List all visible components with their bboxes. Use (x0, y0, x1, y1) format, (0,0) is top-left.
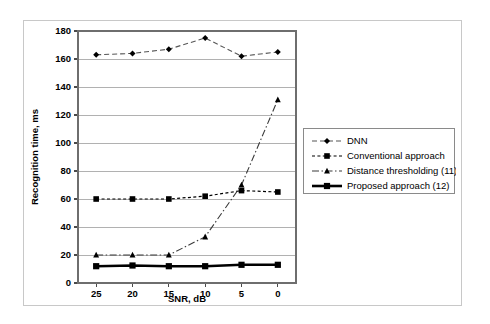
square-marker (202, 263, 208, 269)
square-marker (93, 196, 99, 202)
y-tick-label: 140 (55, 81, 71, 92)
y-tick-label: 0 (66, 277, 71, 288)
legend-item[interactable]: Distance thresholding (11) (312, 165, 456, 176)
diamond-marker (202, 35, 208, 41)
legend-label: Distance thresholding (11) (347, 165, 456, 176)
y-tick-label: 100 (55, 137, 71, 148)
diamond-marker (324, 138, 330, 144)
square-marker (324, 153, 330, 159)
legend-label: Conventional approach (347, 150, 445, 161)
x-axis-title: SNR, dB (168, 293, 206, 304)
series-line (96, 191, 278, 199)
series-dnn (93, 35, 281, 59)
square-marker (238, 262, 244, 268)
legend-item[interactable]: Proposed approach (12) (312, 180, 449, 191)
y-tick-label: 120 (55, 109, 71, 120)
gridlines (78, 31, 296, 283)
square-marker (166, 263, 172, 269)
legend-label: DNN (347, 135, 368, 146)
square-marker (324, 183, 330, 189)
legend-label: Proposed approach (12) (347, 180, 449, 191)
y-tick-label: 60 (60, 193, 71, 204)
diamond-marker (275, 49, 281, 55)
y-tick-label: 180 (55, 25, 71, 36)
series-line (96, 265, 278, 266)
y-tick-label: 80 (60, 165, 71, 176)
square-marker (130, 196, 136, 202)
series-distance-thresholding-11 (93, 96, 281, 257)
diamond-marker (130, 50, 136, 56)
triangle-marker (275, 96, 281, 102)
series-line (96, 100, 278, 255)
y-axis-title: Recognition time, ms (29, 109, 40, 205)
diamond-marker (166, 46, 172, 52)
square-marker (275, 262, 281, 268)
y-tick-label: 20 (60, 249, 71, 260)
x-tick-label: 25 (91, 288, 102, 299)
series-proposed-approach-12 (93, 262, 281, 270)
triangle-marker (202, 234, 208, 240)
square-marker (275, 189, 281, 195)
x-tick-label: 0 (275, 288, 280, 299)
y-tick-label: 160 (55, 53, 71, 64)
x-tick-label: 20 (127, 288, 138, 299)
square-marker (129, 262, 135, 268)
legend-item[interactable]: Conventional approach (312, 150, 445, 161)
legend-item[interactable]: DNN (312, 135, 368, 146)
triangle-marker (239, 182, 245, 188)
x-tick-label: 5 (239, 288, 245, 299)
series-conventional-approach (93, 188, 280, 202)
y-tick-label: 40 (60, 221, 71, 232)
y-axis-ticks: 020406080100120140160180 (55, 25, 78, 288)
diamond-marker (93, 52, 99, 58)
plot-area-border (78, 31, 296, 283)
square-marker (93, 263, 99, 269)
square-marker (202, 193, 208, 199)
square-marker (166, 196, 172, 202)
series-line (96, 38, 278, 56)
diamond-marker (239, 53, 245, 59)
chart-legend: DNNConventional approachDistance thresho… (303, 128, 455, 194)
data-series (93, 35, 281, 269)
legend-content: DNNConventional approachDistance thresho… (304, 129, 456, 195)
